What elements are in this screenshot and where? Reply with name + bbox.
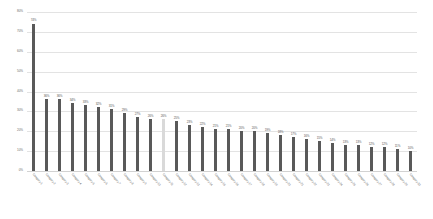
bar-slot[interactable]: 20% bbox=[248, 12, 261, 171]
bar[interactable] bbox=[357, 145, 360, 171]
bar-slot[interactable]: 18% bbox=[274, 12, 287, 171]
x-axis-tick-labels: Category 1Category 2Category 3Category 4… bbox=[27, 172, 417, 219]
bar-value-label: 34% bbox=[70, 99, 76, 102]
x-axis-tick-slot: Category 26 bbox=[352, 172, 365, 219]
x-axis-tick-slot: Category 18 bbox=[248, 172, 261, 219]
x-axis-tick-slot: Category 4 bbox=[66, 172, 79, 219]
bar[interactable] bbox=[383, 147, 386, 171]
x-axis-tick-slot: Category 24 bbox=[326, 172, 339, 219]
bar[interactable] bbox=[292, 137, 295, 171]
bar[interactable] bbox=[71, 103, 74, 171]
bar[interactable] bbox=[266, 133, 269, 171]
bar-value-label: 11% bbox=[395, 145, 400, 148]
bar-slot[interactable]: 10% bbox=[404, 12, 417, 171]
bar[interactable] bbox=[344, 145, 347, 171]
bar-value-label: 26% bbox=[161, 115, 167, 118]
bar-slot[interactable]: 26% bbox=[157, 12, 170, 171]
bar[interactable] bbox=[305, 139, 308, 171]
bar[interactable] bbox=[32, 24, 35, 171]
y-axis-tick: 40% bbox=[17, 90, 23, 93]
bar[interactable] bbox=[136, 117, 139, 171]
x-axis-tick-slot: Category 17 bbox=[235, 172, 248, 219]
bar-slot[interactable]: 36% bbox=[53, 12, 66, 171]
y-axis-tick: 0% bbox=[19, 169, 23, 172]
bar[interactable] bbox=[279, 135, 282, 171]
bar-slot[interactable]: 20% bbox=[235, 12, 248, 171]
bar-slot[interactable]: 26% bbox=[144, 12, 157, 171]
bar[interactable] bbox=[175, 121, 178, 171]
x-axis-tick-slot: Category 21 bbox=[287, 172, 300, 219]
bar[interactable] bbox=[123, 113, 126, 171]
bar-chart: 80%70%60%50%40%30%20%10%0% 74%36%36%34%3… bbox=[0, 0, 433, 219]
bar[interactable] bbox=[253, 131, 256, 171]
x-axis-tick-slot: Category 10 bbox=[144, 172, 157, 219]
bar[interactable] bbox=[149, 119, 152, 171]
bar-slot[interactable]: 25% bbox=[170, 12, 183, 171]
bar-value-label: 21% bbox=[213, 125, 219, 128]
bar[interactable] bbox=[240, 131, 243, 171]
bar-value-label: 36% bbox=[57, 95, 63, 98]
bar-slot[interactable]: 21% bbox=[222, 12, 235, 171]
bar[interactable] bbox=[396, 149, 399, 171]
bar-slot[interactable]: 15% bbox=[313, 12, 326, 171]
bar-slot[interactable]: 27% bbox=[131, 12, 144, 171]
bar[interactable] bbox=[188, 125, 191, 171]
bar-value-label: 33% bbox=[83, 101, 89, 104]
bar-value-label: 22% bbox=[200, 123, 206, 126]
bar-slot[interactable]: 11% bbox=[391, 12, 404, 171]
bar[interactable] bbox=[214, 129, 217, 171]
bar-value-label: 14% bbox=[330, 139, 336, 142]
bar[interactable] bbox=[58, 99, 61, 171]
bar-slot[interactable]: 31% bbox=[105, 12, 118, 171]
bar-slot[interactable]: 19% bbox=[261, 12, 274, 171]
bar-value-label: 13% bbox=[356, 141, 362, 144]
bar-value-label: 36% bbox=[44, 95, 50, 98]
bar-slot[interactable]: 14% bbox=[326, 12, 339, 171]
bar-slot[interactable]: 16% bbox=[300, 12, 313, 171]
x-axis-tick-slot: Category 27 bbox=[365, 172, 378, 219]
bar-slot[interactable]: 17% bbox=[287, 12, 300, 171]
bar-slot[interactable]: 21% bbox=[209, 12, 222, 171]
x-axis-tick-slot: Category 29 bbox=[391, 172, 404, 219]
bar-slot[interactable]: 32% bbox=[92, 12, 105, 171]
bar[interactable] bbox=[370, 147, 373, 171]
x-axis-tick-slot: Category 8 bbox=[118, 172, 131, 219]
bar-slot[interactable]: 33% bbox=[79, 12, 92, 171]
bar-value-label: 23% bbox=[187, 121, 193, 124]
bar[interactable] bbox=[318, 141, 321, 171]
bar-slot[interactable]: 13% bbox=[339, 12, 352, 171]
bar-slot[interactable]: 36% bbox=[40, 12, 53, 171]
bar-slot[interactable]: 22% bbox=[196, 12, 209, 171]
bar-slot[interactable]: 34% bbox=[66, 12, 79, 171]
bar[interactable] bbox=[97, 107, 100, 171]
x-axis-tick-slot: Category 9 bbox=[131, 172, 144, 219]
x-axis-tick-slot: Category 5 bbox=[79, 172, 92, 219]
bar[interactable] bbox=[201, 127, 204, 171]
x-axis-tick-slot: Category 23 bbox=[313, 172, 326, 219]
bar-highlighted[interactable] bbox=[162, 119, 165, 171]
bar[interactable] bbox=[409, 151, 412, 171]
bar-slot[interactable]: 12% bbox=[378, 12, 391, 171]
y-axis-tick-labels: 80%70%60%50%40%30%20%10%0% bbox=[0, 12, 25, 171]
x-axis-tick-slot: Category 14 bbox=[196, 172, 209, 219]
bar-value-label: 13% bbox=[343, 141, 349, 144]
x-axis-tick-slot: Category 22 bbox=[300, 172, 313, 219]
bar-slot[interactable]: 23% bbox=[183, 12, 196, 171]
bar[interactable] bbox=[331, 143, 334, 171]
bar-value-label: 29% bbox=[122, 109, 128, 112]
bar-value-label: 32% bbox=[96, 103, 102, 106]
bar-slot[interactable]: 74% bbox=[27, 12, 40, 171]
x-axis-tick-slot: Category 15 bbox=[209, 172, 222, 219]
bar[interactable] bbox=[110, 109, 113, 171]
bar[interactable] bbox=[45, 99, 48, 171]
x-axis-tick-slot: Category 2 bbox=[40, 172, 53, 219]
bar[interactable] bbox=[84, 105, 87, 171]
bar-slot[interactable]: 12% bbox=[365, 12, 378, 171]
bar-slot[interactable]: 13% bbox=[352, 12, 365, 171]
y-axis-tick: 60% bbox=[17, 50, 23, 53]
y-axis-tick: 20% bbox=[17, 130, 23, 133]
bar[interactable] bbox=[227, 129, 230, 171]
bar-slot[interactable]: 29% bbox=[118, 12, 131, 171]
bar-value-label: 12% bbox=[382, 143, 388, 146]
x-axis-tick-slot: Category 28 bbox=[378, 172, 391, 219]
